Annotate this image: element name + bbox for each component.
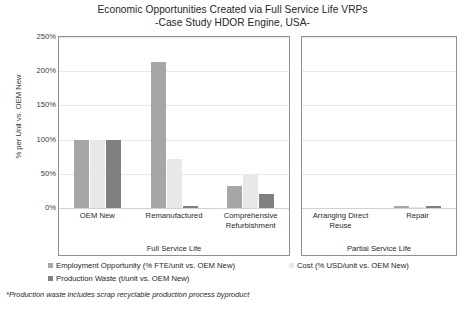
bar[interactable] <box>227 186 242 208</box>
bar[interactable] <box>243 175 258 208</box>
bar[interactable] <box>183 206 198 208</box>
bar-group <box>302 37 379 208</box>
y-axis-tick-0: 0% <box>16 203 56 212</box>
legend-label-employment: Employment Opportunity (% FTE/unit vs. O… <box>56 261 235 270</box>
panel-full-service-life: OEM NewRemanufacturedComprehensive Refur… <box>58 36 290 256</box>
chart-legend: Employment Opportunity (% FTE/unit vs. O… <box>30 261 450 287</box>
plot-area-partial-service-life <box>302 37 456 208</box>
bar[interactable] <box>106 140 121 208</box>
bar[interactable] <box>259 194 274 208</box>
y-axis-tick-labels: 250%200%150%100%50%0% <box>16 30 56 214</box>
plot-area-full-service-life <box>59 37 289 208</box>
chart-footnote: *Production waste includes scrap recycla… <box>6 290 249 299</box>
bar[interactable] <box>410 207 425 208</box>
legend-swatch-cost <box>289 263 294 268</box>
bar-groups-full <box>59 37 289 208</box>
bar[interactable] <box>167 159 182 208</box>
category-label: Comprehensive Refurbishment <box>212 209 289 239</box>
category-labels-full: OEM NewRemanufacturedComprehensive Refur… <box>59 209 289 239</box>
legend-label-cost: Cost (% USD/unit vs. OEM New) <box>297 261 409 270</box>
y-axis-tick-50: 50% <box>16 168 56 177</box>
category-label: OEM New <box>59 209 136 239</box>
category-label: Repair <box>379 209 456 239</box>
legend-swatch-employment <box>48 263 53 268</box>
category-label: Remanufactured <box>136 209 213 239</box>
y-axis-tick-250: 250% <box>16 32 56 41</box>
bar-group <box>59 37 136 208</box>
bar-groups-partial <box>302 37 456 208</box>
chart-subtitle: -Case Study HDOR Engine, USA- <box>0 17 465 30</box>
bar[interactable] <box>74 140 89 208</box>
panel-label-full-service-life: Full Service Life <box>59 244 289 253</box>
bar[interactable] <box>394 206 409 208</box>
bar-group <box>379 37 456 208</box>
y-axis-tick-150: 150% <box>16 100 56 109</box>
chart-title: Economic Opportunities Created via Full … <box>0 4 465 29</box>
category-labels-partial: Arranging Direct ReuseRepair <box>302 209 456 239</box>
bar[interactable] <box>90 140 105 208</box>
category-label: Arranging Direct Reuse <box>302 209 379 239</box>
legend-swatch-production-waste <box>48 276 53 281</box>
bar[interactable] <box>426 206 441 208</box>
legend-item-cost: Cost (% USD/unit vs. OEM New) <box>289 261 409 270</box>
bar-group <box>136 37 213 208</box>
y-axis-tick-200: 200% <box>16 66 56 75</box>
panel-label-partial-service-life: Partial Service Life <box>302 244 456 253</box>
chart-title-line1: Economic Opportunities Created via Full … <box>97 4 367 15</box>
bar[interactable] <box>151 62 166 208</box>
bar-group <box>212 37 289 208</box>
legend-item-production-waste: Production Waste (t/unit vs. OEM New) <box>48 274 189 283</box>
legend-label-production-waste: Production Waste (t/unit vs. OEM New) <box>56 274 189 283</box>
legend-item-employment: Employment Opportunity (% FTE/unit vs. O… <box>48 261 235 270</box>
panel-partial-service-life: Arranging Direct ReuseRepair Partial Ser… <box>301 36 457 256</box>
y-axis-tick-100: 100% <box>16 134 56 143</box>
